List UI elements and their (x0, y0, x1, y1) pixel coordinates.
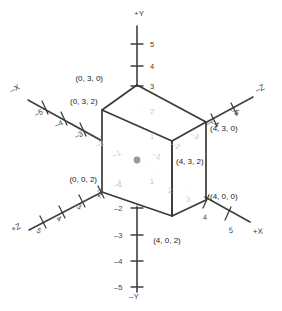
axis-label-minus-x: –X (9, 82, 22, 95)
tick-label-ym5: –5 (114, 283, 122, 292)
origin-marker (134, 157, 141, 164)
tick-label-x1: 1 (150, 177, 155, 186)
vertex-label-0-3-2: (0, 3, 2) (70, 97, 98, 106)
diagram-canvas: +Y –Y +X –X +Z –Z 5 4 3 2 1 –1 –2 –3 –4 … (0, 0, 282, 311)
axis-label-minus-y: –Y (129, 292, 139, 301)
tick-label-y5: 5 (150, 40, 154, 49)
axis-label-plus-z: +Z (10, 222, 23, 234)
tick-label-y2: 2 (150, 107, 154, 116)
tick-label-z3: 3 (75, 202, 83, 212)
vertex-label-4-0-0: (4, 0, 0) (210, 192, 238, 201)
tick-label-z5: 5 (35, 226, 43, 236)
tick-label-x5: 5 (229, 226, 234, 235)
axis-plus-z (29, 192, 102, 230)
tick-label-x4: 4 (203, 213, 208, 222)
axis-label-plus-y: +Y (134, 9, 145, 18)
tick-label-y4: 4 (150, 62, 154, 71)
tick-label-y1: 1 (150, 132, 154, 141)
coordinate-diagram: +Y –Y +X –X +Z –Z 5 4 3 2 1 –1 –2 –3 –4 … (0, 0, 282, 311)
tick-label-y3: 3 (150, 82, 154, 91)
axis-label-minus-z: –Z (254, 83, 266, 95)
tick-label-ym3: –3 (114, 231, 122, 240)
vertex-label-4-3-0: (4, 3, 0) (210, 124, 238, 133)
tick-label-x3: 3 (186, 195, 191, 204)
vertex-label-0-0-2: (0, 0, 2) (69, 175, 97, 184)
vertex-label-4-0-2: (4, 0, 2) (153, 236, 181, 245)
tick-label-zm5: –5 (229, 106, 240, 118)
tick-label-ym4: –4 (114, 257, 122, 266)
vertex-label-4-3-2: (4, 3, 2) (176, 157, 204, 166)
axis-label-plus-x: +X (253, 227, 264, 237)
vertex-label-0-3-0: (0, 3, 0) (75, 74, 103, 83)
tick-label-x2: 2 (168, 186, 173, 195)
tick-label-ym2: –2 (114, 204, 122, 213)
